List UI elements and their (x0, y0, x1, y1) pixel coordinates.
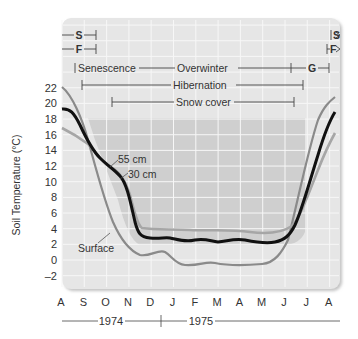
year-1975-label: 1975 (189, 315, 213, 327)
phase-s-label: S (75, 29, 82, 41)
y-tick-label: 6 (51, 207, 57, 219)
y-tick-label: 2 (51, 238, 57, 250)
x-tick-label: J (281, 296, 287, 308)
x-tick-label: A (57, 296, 65, 308)
y-tick-label: 8 (51, 191, 57, 203)
x-tick-label: S (80, 296, 87, 308)
phase-overwinter-label: Overwinter (177, 62, 228, 74)
y-tick-label: 14 (45, 144, 57, 156)
y-axis-label: Soil Temperature (°C) (10, 135, 22, 236)
x-tick-label: J (170, 296, 176, 308)
x-tick-label: M (213, 296, 222, 308)
label-30cm: 30 cm (128, 168, 157, 180)
y-tick-label: –2 (45, 270, 57, 282)
year-1974-label: 1974 (99, 315, 123, 327)
phase-s-right-label: S (333, 29, 340, 41)
y-tick-label: 12 (45, 160, 57, 172)
y-axis-ticks: 2220181614121086420–2 (45, 82, 57, 282)
y-tick-label: 4 (51, 223, 57, 235)
x-tick-label: D (146, 296, 154, 308)
y-tick-label: 20 (45, 97, 57, 109)
soil-temperature-chart: S F Senescence Overwinter G Hibernation … (0, 0, 358, 339)
y-tick-label: 10 (45, 176, 57, 188)
y-tick-label: 0 (51, 254, 57, 266)
phase-f-label: F (76, 43, 83, 55)
label-55cm: 55 cm (118, 153, 147, 165)
phase-hibernation-label: Hibernation (173, 79, 227, 91)
phase-senescence-label: Senescence (78, 62, 136, 74)
label-surface: Surface (78, 242, 114, 254)
x-tick-label: M (257, 296, 266, 308)
phase-snow-label: Snow cover (176, 96, 231, 108)
x-tick-label: J (304, 296, 310, 308)
y-tick-label: 22 (45, 82, 57, 94)
x-tick-label: A (236, 296, 244, 308)
y-tick-label: 16 (45, 129, 57, 141)
phase-g-label: G (308, 62, 316, 74)
phase-f-right-label: F (330, 43, 337, 55)
x-tick-label: A (325, 296, 333, 308)
x-axis-ticks: ASONDJFMAMJJA (57, 296, 333, 308)
x-tick-label: N (124, 296, 132, 308)
x-tick-label: F (191, 296, 198, 308)
y-tick-label: 18 (45, 113, 57, 125)
x-tick-label: O (101, 296, 110, 308)
